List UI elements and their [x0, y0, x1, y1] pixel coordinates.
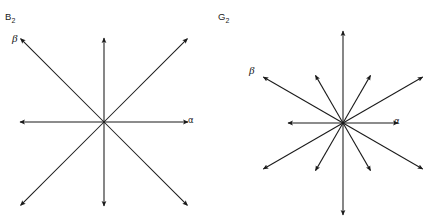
root-vector-300	[343, 123, 371, 171]
root-vector-120	[316, 75, 344, 123]
g2-alpha-label: α	[394, 117, 400, 126]
root-vector-150	[263, 77, 343, 123]
root-vector-315	[104, 122, 187, 205]
b2-root-diagram	[0, 0, 214, 218]
root-vector-330	[343, 123, 423, 169]
root-vector-45	[104, 39, 187, 122]
b2-beta-label: β	[12, 33, 17, 44]
b2-alpha-label: α	[188, 116, 194, 125]
panel-g2: G2 β α	[214, 0, 427, 218]
root-vector-240	[316, 123, 344, 171]
root-vector-30	[343, 77, 423, 123]
g2-beta-label: β	[249, 65, 254, 76]
b2-root-vectors	[20, 38, 188, 206]
root-vector-210	[263, 123, 343, 169]
g2-root-diagram	[214, 0, 427, 218]
root-vector-60	[343, 75, 371, 123]
root-system-figure: B2 β α G2 β α	[0, 0, 427, 218]
root-vector-135	[21, 39, 104, 122]
root-vector-225	[21, 122, 104, 205]
panel-b2: B2 β α	[0, 0, 214, 218]
